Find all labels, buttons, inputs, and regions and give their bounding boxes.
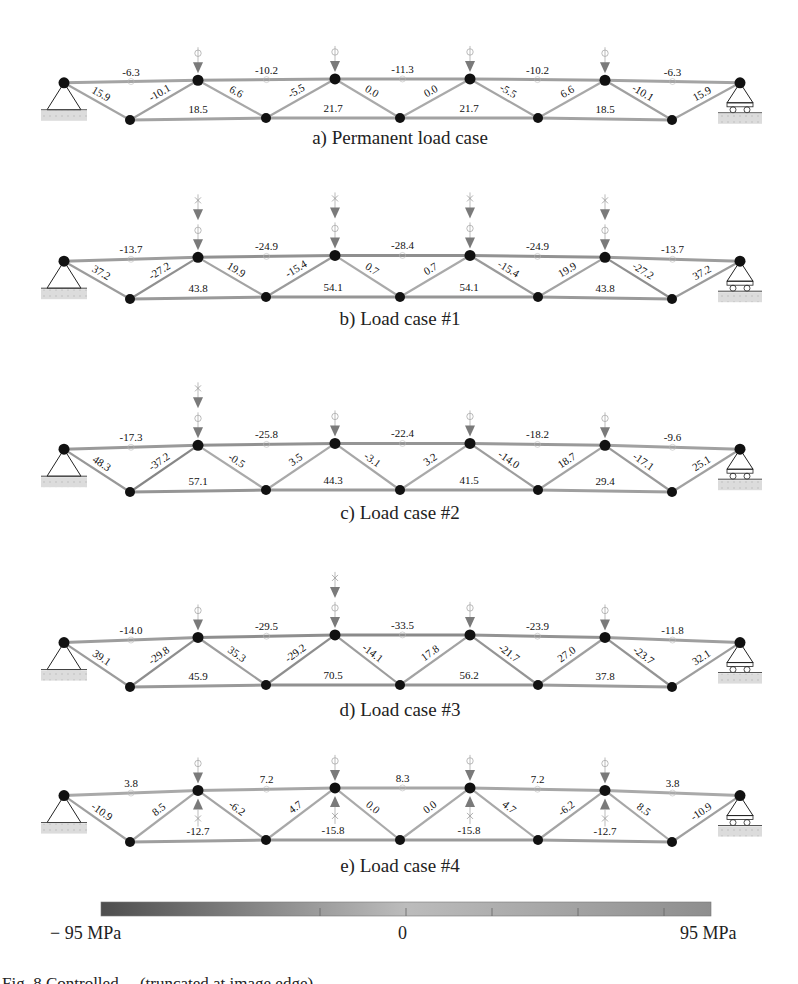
diagonal-stress-label: -10.1 <box>630 81 656 103</box>
truss-node <box>59 256 70 267</box>
top-chord-member <box>605 445 740 449</box>
uplift-load-arrow-icon <box>330 796 340 824</box>
diagonal-stress-label: -29.2 <box>282 641 308 664</box>
truss-figure: -6.3-10.2-11.3-10.2-6.315.9-10.16.6-5.50… <box>0 0 798 984</box>
truss-panel-d: -14.0-29.5-33.5-23.9-11.839.1-29.835.3-2… <box>41 572 762 721</box>
top-chord-stress-label: 8.3 <box>396 772 410 784</box>
panel-caption: d) Load case #3 <box>340 699 461 721</box>
truss-panels: -6.3-10.2-11.3-10.2-6.315.9-10.16.6-5.50… <box>41 46 762 877</box>
variable-load-arrow-icon <box>465 192 475 218</box>
roller-support-icon <box>718 449 762 490</box>
top-chord-member <box>605 637 740 642</box>
diagonal-stress-label: -15.4 <box>496 257 522 279</box>
pin-support-icon <box>41 261 87 299</box>
bottom-chord-member <box>538 840 672 842</box>
permanent-load-arrow-icon <box>193 604 203 630</box>
permanent-load-arrow-icon <box>330 46 340 72</box>
truss-node <box>465 629 476 640</box>
bottom-chord-stress-label: 18.5 <box>595 103 615 115</box>
truss-node <box>600 785 611 796</box>
top-chord-stress-label: -9.6 <box>664 431 682 443</box>
truss-panel-e: 3.87.28.37.23.8-10.98.5-6.24.70.00.04.7-… <box>41 755 762 877</box>
bottom-chord-stress-label: 43.8 <box>595 282 615 294</box>
truss-node <box>533 680 543 690</box>
bottom-chord-member <box>130 297 266 299</box>
truss-node <box>59 790 70 801</box>
top-chord-member <box>470 79 605 80</box>
bottom-chord-stress-label: -12.7 <box>594 825 617 837</box>
truss-node <box>600 75 611 86</box>
permanent-load-arrow-icon <box>330 755 340 781</box>
permanent-load-arrow-icon <box>600 47 610 73</box>
top-chord-member <box>64 790 198 795</box>
top-chord-member <box>198 788 335 791</box>
permanent-load-arrow-icon <box>193 47 203 73</box>
truss-node <box>193 785 204 796</box>
diagonal-stress-label: -27.2 <box>146 259 172 281</box>
bottom-chord-stress-label: 29.4 <box>595 475 615 487</box>
diagonal-stress-label: 39.1 <box>91 647 114 668</box>
top-chord-stress-label: 7.2 <box>531 773 545 785</box>
diagonal-stress-label: 17.8 <box>418 642 441 663</box>
top-chord-member <box>198 255 335 257</box>
uplift-load-arrow-icon <box>193 798 203 826</box>
panel-caption: e) Load case #4 <box>340 855 460 877</box>
truss-node <box>735 790 746 801</box>
permanent-load-arrow-icon <box>193 757 203 783</box>
top-chord-stress-label: -29.5 <box>255 620 278 632</box>
permanent-load-arrow-icon <box>193 412 203 438</box>
roller-support-icon <box>718 643 762 684</box>
truss-node <box>465 250 476 261</box>
truss-panel-a: -6.3-10.2-11.3-10.2-6.315.9-10.16.6-5.50… <box>41 46 762 149</box>
truss-node <box>465 438 476 449</box>
permanent-load-arrow-icon <box>330 222 340 248</box>
truss-node <box>330 250 341 261</box>
diagonal-stress-label: -14.0 <box>496 448 522 471</box>
truss-node <box>533 113 543 123</box>
bottom-chord-stress-label: 56.2 <box>459 669 478 681</box>
diagonal-stress-label: -10.9 <box>89 800 115 823</box>
top-chord-member <box>198 443 335 445</box>
diagonal-stress-label: 18.7 <box>555 450 578 471</box>
permanent-load-arrow-icon <box>465 410 475 436</box>
top-chord-member <box>605 790 740 795</box>
truss-panel-c: -17.3-25.8-22.4-18.2-9.648.3-37.2-0.53.5… <box>41 382 762 524</box>
diagonal-stress-label: 32.1 <box>690 647 713 668</box>
truss-node <box>125 294 135 304</box>
top-chord-member <box>64 257 198 261</box>
bottom-chord-stress-label: -15.8 <box>458 824 481 836</box>
figure-caption-truncated: Fig. 8 Controlled ... (truncated at imag… <box>0 974 798 984</box>
pin-support-icon <box>41 796 87 834</box>
colorbar: − 95 MPa 0 95 MPa <box>50 902 737 943</box>
top-chord-stress-label: -22.4 <box>391 427 414 439</box>
top-chord-stress-label: -33.5 <box>391 619 414 631</box>
top-chord-stress-label: -10.2 <box>526 64 549 76</box>
diagonal-stress-label: -23.7 <box>631 643 657 667</box>
permanent-load-arrow-icon <box>330 602 340 628</box>
top-chord-stress-label: -24.9 <box>255 240 278 252</box>
truss-node <box>193 75 204 86</box>
uplift-load-arrow-icon <box>600 798 610 826</box>
truss-node <box>395 292 405 302</box>
top-chord-stress-label: 3.8 <box>124 777 138 789</box>
top-chord-member <box>470 443 605 445</box>
permanent-load-arrow-icon <box>465 222 475 248</box>
diagonal-stress-label: -10.9 <box>688 800 714 823</box>
diagonal-stress-label: -14.1 <box>360 641 385 664</box>
colorbar-min-label: − 95 MPa <box>50 923 121 943</box>
permanent-load-arrow-icon <box>465 602 475 628</box>
diagonal-stress-label: 19.9 <box>225 259 248 279</box>
bottom-chord-stress-label: 45.9 <box>188 670 208 682</box>
truss-node <box>395 680 405 690</box>
truss-node <box>193 252 204 263</box>
truss-node <box>59 444 70 455</box>
diagonal-stress-label: -21.7 <box>497 641 523 665</box>
top-chord-stress-label: -6.3 <box>664 66 682 78</box>
pin-support-icon <box>41 449 87 487</box>
variable-load-arrow-icon <box>600 194 610 220</box>
top-chord-stress-label: 7.2 <box>260 773 274 785</box>
permanent-load-arrow-icon <box>465 46 475 72</box>
uplift-load-arrow-icon <box>465 796 475 824</box>
variable-load-arrow-icon <box>193 382 203 408</box>
truss-node <box>735 77 746 88</box>
